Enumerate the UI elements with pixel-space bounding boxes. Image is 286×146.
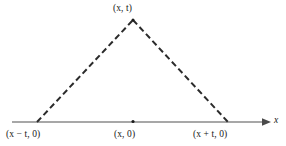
x-axis-arrowhead xyxy=(262,118,271,126)
x-axis-label: x xyxy=(274,116,278,126)
apex-point-label: (x, t) xyxy=(113,4,132,14)
center-base-point-label: (x, 0) xyxy=(114,130,135,140)
center-point-marker xyxy=(131,120,134,123)
figure-canvas xyxy=(0,0,286,146)
right-characteristic-line xyxy=(133,20,228,122)
left-characteristic-line xyxy=(37,20,133,122)
right-base-point-label: (x + t, 0) xyxy=(193,130,227,140)
left-base-point-label: (x − t, 0) xyxy=(6,130,40,140)
characteristic-triangle-figure: (x, t) (x − t, 0) (x, 0) (x + t, 0) x xyxy=(0,0,286,146)
apex-point-marker xyxy=(132,19,135,22)
